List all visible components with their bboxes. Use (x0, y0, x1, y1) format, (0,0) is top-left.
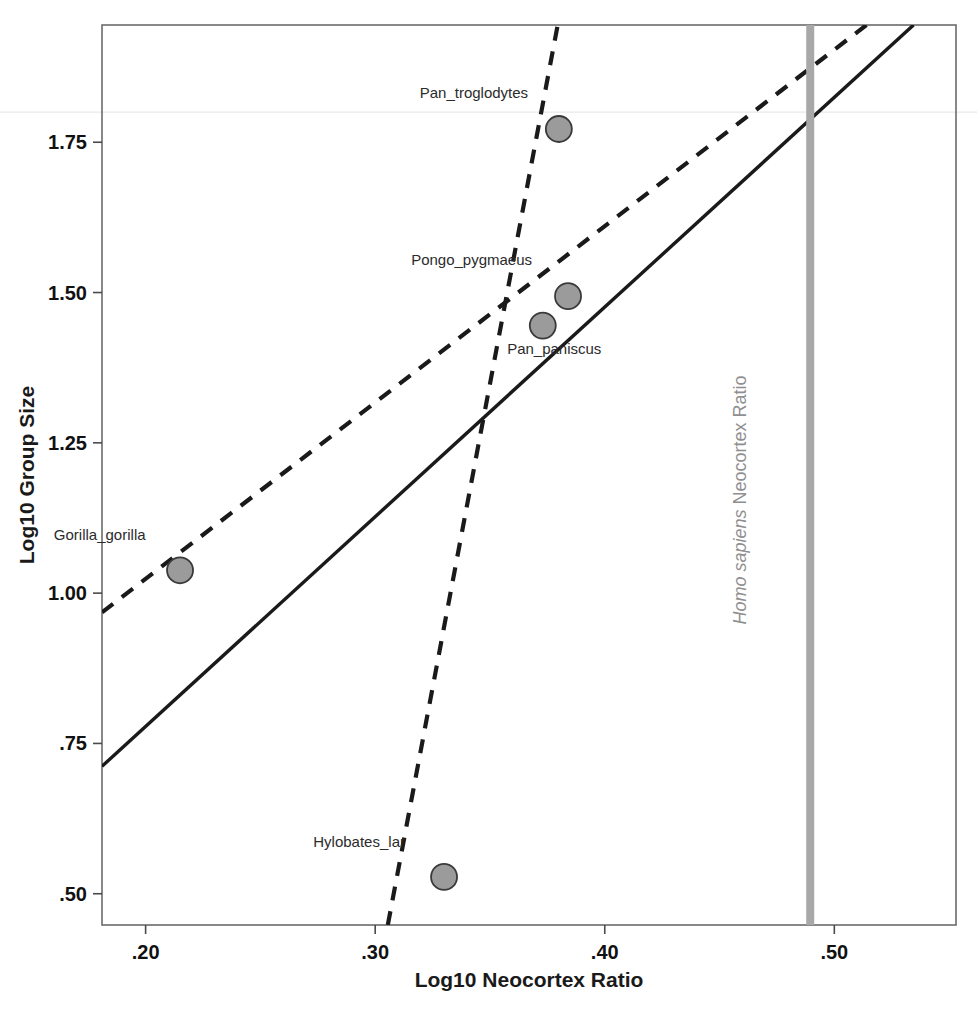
solid-fit-line (102, 25, 914, 766)
x-tick-label: .20 (132, 941, 160, 963)
y-axis-ticks: 1.751.501.251.00.75.50 (48, 131, 102, 905)
y-tick-label: 1.25 (48, 432, 87, 454)
data-point[interactable]: Gorilla_gorilla (54, 526, 193, 583)
x-axis-ticks: .20.30.40.50 (132, 925, 849, 963)
data-point[interactable]: Pan_troglodytes (420, 84, 572, 142)
trend-lines-layer (102, 25, 914, 925)
point-marker[interactable] (167, 557, 193, 583)
plot-frame (102, 25, 956, 925)
data-point[interactable]: Pan_paniscus (507, 313, 601, 358)
reference-line-suffix: Neocortex Ratio (730, 375, 750, 509)
x-tick-label: .50 (820, 941, 848, 963)
y-axis-title: Log10 Group Size (15, 386, 38, 565)
data-point[interactable]: Hylobates_lar (313, 833, 457, 890)
point-label: Pongo_pygmaeus (411, 251, 532, 268)
point-marker[interactable] (530, 313, 556, 339)
point-label: Pan_troglodytes (420, 84, 528, 101)
scatter-plot: Pan_troglodytesPongo_pygmaeusPan_paniscu… (0, 0, 977, 1011)
y-tick-label: .50 (59, 883, 87, 905)
point-label: Pan_paniscus (507, 340, 601, 357)
point-marker[interactable] (555, 283, 581, 309)
y-tick-label: 1.75 (48, 131, 87, 153)
reference-line-label: Homo sapiens Neocortex Ratio (730, 375, 750, 624)
dashed-fit-line (102, 25, 866, 612)
data-points-layer: Pan_troglodytesPongo_pygmaeusPan_paniscu… (54, 84, 602, 890)
point-label: Hylobates_lar (313, 833, 405, 850)
y-tick-label: 1.50 (48, 282, 87, 304)
x-tick-label: .30 (361, 941, 389, 963)
point-marker[interactable] (546, 116, 572, 142)
x-tick-label: .40 (591, 941, 619, 963)
point-marker[interactable] (431, 864, 457, 890)
point-label: Gorilla_gorilla (54, 526, 146, 543)
reference-line-species: Homo sapiens (730, 510, 750, 625)
x-axis-title: Log10 Neocortex Ratio (415, 968, 644, 991)
steep-dashed-line (388, 25, 558, 925)
chart-page: Pan_troglodytesPongo_pygmaeusPan_paniscu… (0, 0, 977, 1011)
data-point[interactable]: Pongo_pygmaeus (411, 251, 581, 309)
y-tick-label: 1.00 (48, 582, 87, 604)
y-tick-label: .75 (59, 732, 87, 754)
